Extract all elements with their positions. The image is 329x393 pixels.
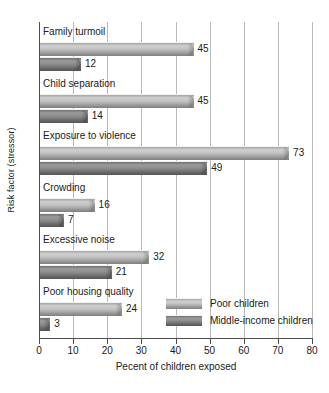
bar (40, 265, 112, 279)
bar-group: Child separation4514 (39, 78, 312, 122)
x-tick-label-10: 10 (58, 345, 88, 356)
bar-cap (82, 110, 88, 123)
bar (40, 317, 50, 331)
x-tick-label-20: 20 (92, 345, 122, 356)
x-tick-10 (73, 339, 74, 344)
y-axis-title-text: Risk factor (stressor) (6, 127, 16, 212)
bar-group: Family turmoil4512 (39, 26, 312, 70)
plot-area: Family turmoil4512Child separation4514Ex… (39, 22, 312, 338)
bar-value-label: 12 (85, 57, 96, 70)
x-tick-30 (141, 339, 142, 344)
x-tick-40 (176, 339, 177, 344)
bar-value-label: 24 (126, 302, 137, 315)
bar-group: Exposure to violence7349 (39, 130, 312, 174)
bar-group: Excessive noise3221 (39, 234, 312, 278)
legend-item-poor-children: Poor children (166, 295, 316, 312)
bar-cap (106, 266, 112, 279)
bar (40, 57, 81, 71)
legend-label-middle-income-children: Middle-income children (210, 315, 313, 326)
x-tick-label-0: 0 (24, 345, 54, 356)
bar-cap (188, 95, 194, 108)
legend-swatch-middle-income-children (166, 315, 202, 326)
x-tick-label-80: 80 (297, 345, 327, 356)
bar-value-label: 21 (116, 265, 127, 278)
x-tick-60 (244, 339, 245, 344)
category-label: Family turmoil (43, 26, 105, 37)
x-tick-label-40: 40 (161, 345, 191, 356)
y-axis-title: Risk factor (stressor) (0, 0, 22, 340)
x-tick-label-50: 50 (195, 345, 225, 356)
category-label: Child separation (43, 78, 115, 89)
x-tick-label-30: 30 (126, 345, 156, 356)
bar-value-label: 7 (68, 213, 74, 226)
x-tick-80 (312, 339, 313, 344)
x-tick-20 (107, 339, 108, 344)
bar (40, 94, 194, 108)
x-tick-70 (278, 339, 279, 344)
bar (40, 42, 194, 56)
legend-item-middle-income-children: Middle-income children (166, 312, 316, 329)
bar-value-label: 49 (211, 161, 222, 174)
x-tick-label-60: 60 (229, 345, 259, 356)
bar (40, 109, 88, 123)
bar-cap (143, 251, 149, 264)
category-label: Excessive noise (43, 234, 115, 245)
x-tick-label-70: 70 (263, 345, 293, 356)
bar-cap (75, 58, 81, 71)
bar-cap (116, 303, 122, 316)
bar (40, 198, 95, 212)
bar-value-label: 14 (92, 109, 103, 122)
bar-value-label: 73 (293, 146, 304, 159)
bar-cap (44, 318, 50, 331)
bar-group: Crowding167 (39, 182, 312, 226)
gridline-80 (312, 22, 313, 338)
legend-swatch-poor-children (166, 298, 202, 309)
category-label: Exposure to violence (43, 130, 136, 141)
bar-value-label: 45 (198, 94, 209, 107)
x-tick-50 (210, 339, 211, 344)
bar-chart: Risk factor (stressor) Family turmoil451… (0, 0, 329, 393)
bar (40, 302, 122, 316)
legend-label-poor-children: Poor children (210, 298, 269, 309)
x-axis-title: Pecent of children exposed (39, 361, 313, 372)
legend: Poor children Middle-income children (166, 295, 316, 329)
x-tick-0 (39, 339, 40, 344)
bar-cap (201, 162, 207, 175)
bar (40, 250, 149, 264)
bar (40, 146, 289, 160)
category-label: Poor housing quality (43, 286, 134, 297)
bar-cap (188, 43, 194, 56)
bar (40, 161, 207, 175)
bar-cap (58, 214, 64, 227)
bar-value-label: 3 (54, 317, 60, 330)
bar-value-label: 45 (198, 42, 209, 55)
bar-value-label: 32 (153, 250, 164, 263)
bar-cap (283, 147, 289, 160)
bar (40, 213, 64, 227)
bar-cap (89, 199, 95, 212)
bar-value-label: 16 (99, 198, 110, 211)
category-label: Crowding (43, 182, 85, 193)
